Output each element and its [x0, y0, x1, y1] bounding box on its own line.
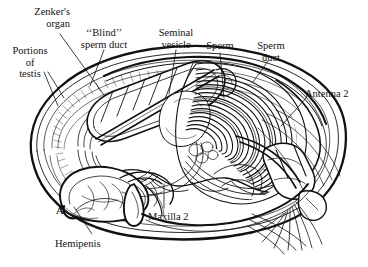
label-maxilla-2: Maxilla 2: [148, 211, 206, 223]
posterior-setae: [248, 214, 306, 254]
label-hemipenis: Hemipenis: [55, 238, 119, 250]
label-portions-of-testis: Portions of testis: [4, 45, 56, 80]
figure-canvas: Zenker's organ ‘‘Blind’’ sperm duct Semi…: [0, 0, 368, 267]
label-sperm-duct: Sperm duct: [250, 40, 292, 63]
label-antenna-2: Antenna 2: [305, 88, 365, 100]
label-sperm: Sperm: [200, 40, 240, 52]
seminal-vesicle-body: [159, 91, 210, 146]
label-seminal-vesicle: Seminal vesicle: [152, 27, 200, 50]
label-zenkers-organ: Zenker's organ: [18, 6, 70, 29]
label-panel-letter-a: A: [56, 205, 68, 217]
label-blind-sperm-duct: ‘‘Blind’’ sperm duct: [70, 27, 138, 50]
egg-cluster: [189, 142, 218, 163]
